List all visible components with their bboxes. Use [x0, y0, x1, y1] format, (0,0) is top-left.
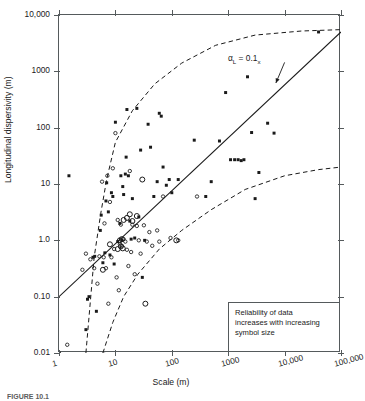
alpha-l-annotation: αL = 0.1x	[228, 53, 261, 65]
data-point	[135, 107, 138, 110]
data-point	[128, 169, 131, 172]
data-point	[254, 197, 257, 200]
data-point	[100, 214, 103, 217]
y-axis-tick	[54, 297, 60, 298]
y-tick-label: 1000	[0, 65, 50, 75]
data-point	[133, 273, 136, 276]
data-point	[95, 310, 98, 313]
data-point	[148, 230, 151, 233]
data-point	[135, 224, 138, 227]
data-point	[113, 263, 116, 266]
x-axis-tick	[285, 10, 286, 16]
y-axis-tick	[54, 71, 60, 72]
data-point	[114, 121, 117, 124]
x-tick-label: 10	[107, 357, 119, 369]
data-point	[140, 177, 145, 182]
data-point	[117, 289, 120, 292]
data-point	[127, 264, 130, 267]
data-point	[99, 229, 102, 232]
data-point	[266, 122, 269, 125]
x-axis-tick	[115, 10, 116, 16]
data-point	[152, 195, 155, 198]
data-point	[67, 174, 70, 177]
y-tick-label: 1.0	[0, 234, 50, 244]
data-point	[161, 195, 164, 198]
data-point	[149, 146, 152, 149]
y-axis-tick	[338, 128, 344, 129]
data-point	[158, 112, 161, 115]
data-point	[156, 180, 159, 183]
data-point	[124, 173, 127, 176]
data-point	[103, 222, 106, 225]
data-point	[162, 166, 165, 169]
data-point	[204, 195, 207, 198]
data-point	[139, 149, 142, 152]
reliability-legend-box: Reliability of data increases with incre…	[228, 302, 340, 352]
data-point	[250, 131, 253, 134]
data-point	[257, 171, 260, 174]
figure-caption: FIGURE 10.1	[7, 393, 363, 401]
data-point	[125, 108, 128, 111]
data-point	[143, 301, 148, 306]
x-tick-label: 1000	[220, 354, 240, 368]
data-point	[165, 184, 168, 187]
data-point	[139, 252, 142, 255]
data-point	[125, 156, 128, 159]
x-axis-title: Scale (m)	[153, 377, 190, 387]
data-point	[66, 343, 69, 346]
data-point	[155, 229, 158, 232]
legend-line-2: increases with increasing	[235, 318, 334, 328]
y-axis-tick	[54, 240, 60, 241]
y-tick-label: 10,000	[0, 9, 50, 19]
data-point	[101, 261, 104, 264]
data-point	[242, 158, 245, 161]
data-point	[160, 115, 163, 118]
data-point	[107, 242, 112, 247]
data-point	[96, 282, 99, 285]
x-axis-tick	[341, 350, 342, 356]
x-axis-tick	[59, 350, 60, 356]
data-point	[84, 252, 87, 255]
data-point	[131, 197, 134, 200]
data-point	[147, 123, 150, 126]
y-axis-title: Longitudinal dispersivity (m)	[3, 76, 13, 183]
data-point	[229, 158, 232, 161]
y-axis-tick	[338, 184, 344, 185]
data-point	[195, 195, 198, 198]
data-point	[151, 244, 154, 247]
data-point	[100, 180, 103, 183]
data-point	[111, 167, 114, 170]
x-tick-label: 10,000	[277, 352, 304, 368]
x-axis-tick	[59, 10, 60, 16]
data-point	[224, 91, 227, 94]
data-point	[107, 210, 110, 213]
data-point	[218, 140, 221, 143]
data-point	[81, 268, 84, 271]
data-point	[108, 200, 111, 203]
x-axis-tick	[115, 350, 116, 356]
data-point	[193, 139, 196, 142]
y-axis-tick	[338, 240, 344, 241]
y-axis-tick	[54, 184, 60, 185]
data-point	[107, 302, 110, 305]
data-point	[170, 191, 173, 194]
data-point	[93, 255, 96, 258]
data-point	[115, 276, 118, 279]
data-point	[240, 159, 243, 162]
data-point	[141, 276, 144, 279]
y-axis-tick	[338, 297, 344, 298]
x-axis-tick	[228, 10, 229, 16]
data-point	[129, 250, 132, 253]
x-axis-tick	[341, 10, 342, 16]
x-axis-tick	[172, 10, 173, 16]
data-point	[168, 178, 171, 181]
data-point	[127, 174, 130, 177]
data-point	[142, 224, 145, 227]
data-point	[84, 328, 87, 331]
data-point	[317, 30, 320, 33]
x-tick-label: 100	[164, 355, 180, 368]
data-point	[111, 195, 114, 198]
data-point	[177, 178, 180, 181]
data-point	[137, 239, 140, 242]
